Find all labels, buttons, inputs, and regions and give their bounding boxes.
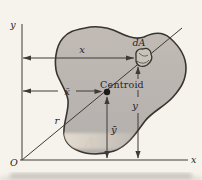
dim-ybar-label: ȳ bbox=[110, 124, 117, 135]
y-axis-label: y bbox=[9, 19, 16, 30]
diagram-canvas: y x O dA Centroid r x x̄ y ȳ A bbox=[0, 0, 202, 180]
area-element bbox=[136, 48, 152, 66]
centroid-label: Centroid bbox=[100, 79, 144, 90]
element-label: dA bbox=[133, 37, 146, 48]
dim-x-label: x bbox=[79, 44, 85, 55]
origin-label: O bbox=[10, 157, 18, 168]
area-element-shape bbox=[136, 48, 152, 66]
area-label: A bbox=[84, 135, 94, 150]
x-axis-label: x bbox=[191, 154, 197, 165]
scan-artifact bbox=[0, 173, 202, 180]
figure-centroid-diagram: y x O dA Centroid r x x̄ y ȳ A bbox=[0, 0, 202, 180]
dim-y-label: y bbox=[131, 100, 138, 111]
dim-xbar-label: x̄ bbox=[64, 86, 70, 97]
